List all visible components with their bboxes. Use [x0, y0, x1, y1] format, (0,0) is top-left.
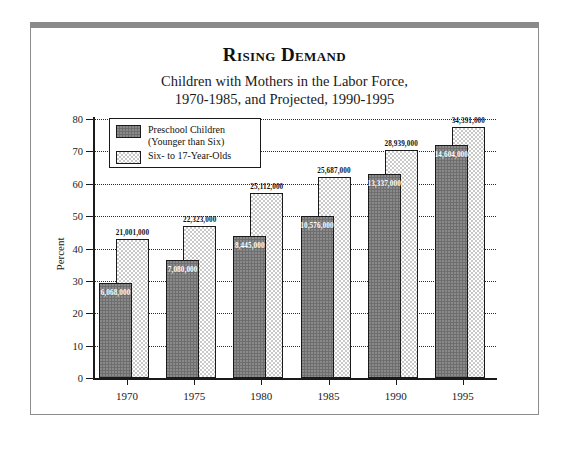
subtitle-line-2: 1970-1985, and Projected, 1990-1995 [30, 90, 539, 108]
bar-group: 34,391,00014,604,000 [429, 119, 496, 378]
y-tick-40 [86, 249, 93, 250]
y-tick-label-40: 40 [73, 243, 84, 254]
bar-value-label: 25,687,000 [317, 167, 350, 175]
legend-label-preschool-line2: (Younger than Six) [148, 136, 225, 148]
y-tick-label-30: 30 [73, 275, 84, 286]
legend-label-preschool: Preschool Children (Younger than Six) [148, 124, 225, 147]
x-tick-1990 [396, 378, 397, 385]
chart-legend: Preschool Children (Younger than Six) Si… [109, 118, 261, 168]
legend-item-schoolage: Six- to 17-Year-Olds [116, 150, 254, 164]
y-tick-70 [86, 151, 93, 152]
bar-preschool[interactable]: 10,576,000 [301, 216, 334, 378]
y-tick-50 [86, 216, 93, 217]
x-tick-label-1995: 1995 [452, 390, 474, 402]
bar-group: 28,939,00013,337,000 [362, 119, 429, 378]
legend-swatch-schoolage [116, 151, 141, 164]
x-tick-label-1975: 1975 [183, 390, 205, 402]
x-tick-1995 [463, 378, 464, 385]
y-tick-label-70: 70 [73, 146, 84, 157]
bar-value-label: 6,068,000 [101, 289, 131, 297]
x-tick-label-1970: 1970 [116, 390, 138, 402]
bar-value-label: 28,939,000 [384, 140, 417, 148]
x-tick-label-1980: 1980 [250, 390, 272, 402]
bar-preschool[interactable]: 6,068,000 [99, 283, 132, 379]
page-title: Rising Demand [30, 44, 539, 66]
bar-value-label: 8,445,000 [235, 242, 265, 250]
y-tick-10 [86, 346, 93, 347]
bar-value-label: 34,391,000 [452, 117, 485, 125]
y-tick-60 [86, 184, 93, 185]
bar-preschool[interactable]: 13,337,000 [368, 174, 401, 378]
x-tick-1970 [127, 378, 128, 385]
y-axis-title: Percent [54, 238, 66, 271]
y-tick-80 [86, 119, 93, 120]
bar-value-label: 10,576,000 [300, 222, 333, 230]
x-tick-1975 [194, 378, 195, 385]
bar-value-label: 13,337,000 [367, 180, 400, 188]
bar-value-label: 7,080,000 [168, 266, 198, 274]
y-tick-20 [86, 313, 93, 314]
x-tick-1980 [261, 378, 262, 385]
y-tick-label-60: 60 [73, 178, 84, 189]
y-tick-label-0: 0 [78, 373, 83, 384]
bar-value-label: 14,604,000 [435, 151, 468, 159]
page-subtitle: Children with Mothers in the Labor Force… [30, 72, 539, 108]
bar-preschool[interactable]: 7,080,000 [166, 260, 199, 378]
y-tick-label-80: 80 [73, 114, 84, 125]
bar-group: 25,687,00010,576,000 [295, 119, 362, 378]
x-tick-label-1985: 1985 [318, 390, 340, 402]
chart-page: Rising Demand Children with Mothers in t… [0, 0, 571, 457]
bar-value-label: 25,112,000 [250, 183, 283, 191]
y-tick-label-20: 20 [73, 308, 84, 319]
legend-label-preschool-line1: Preschool Children [148, 124, 225, 136]
bar-preschool[interactable]: 8,445,000 [233, 236, 266, 378]
y-tick-label-50: 50 [73, 211, 84, 222]
x-tick-label-1990: 1990 [385, 390, 407, 402]
frame-top-bar [30, 22, 539, 28]
bar-preschool[interactable]: 14,604,000 [435, 145, 468, 378]
legend-item-preschool: Preschool Children (Younger than Six) [116, 124, 254, 147]
x-axis-line [93, 378, 497, 380]
y-tick-0 [86, 378, 93, 379]
bar-value-label: 22,323,000 [183, 216, 216, 224]
x-tick-1985 [329, 378, 330, 385]
subtitle-line-1: Children with Mothers in the Labor Force… [30, 72, 539, 90]
bar-value-label: 21,001,000 [116, 229, 149, 237]
legend-swatch-preschool [116, 125, 141, 138]
y-tick-30 [86, 281, 93, 282]
y-tick-label-10: 10 [73, 340, 84, 351]
legend-label-schoolage: Six- to 17-Year-Olds [148, 150, 231, 162]
